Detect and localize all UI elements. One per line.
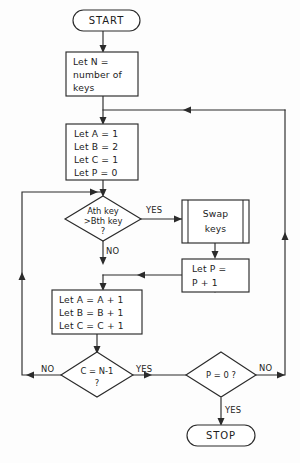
arrowhead-swap-to-inc-p (212, 251, 219, 259)
swap-keys-line-2: keys (205, 223, 227, 234)
node-init-vars[interactable]: Let A = 1 Let B = 2 Let C = 1 Let P = 0 (66, 124, 138, 180)
inc-abc-line-2: Let B = B + 1 (59, 307, 124, 318)
edge-label-check-p-no: NO (259, 363, 272, 373)
edge-label-compare-yes: YES (145, 205, 162, 215)
init-vars-line-1: Let A = 1 (74, 128, 118, 139)
inc-p-line-2: P + 1 (192, 277, 218, 288)
init-vars-line-4: Let P = 0 (74, 167, 117, 178)
node-check-c[interactable]: C = N-1 ? (61, 352, 133, 397)
arrowhead-check-c-no-up (19, 272, 26, 280)
edge-label-check-c-no: NO (41, 364, 54, 374)
node-stop[interactable]: STOP (187, 425, 255, 446)
compare-keys-line-1: Ath key (87, 206, 119, 216)
edge-label-check-c-yes: YES (135, 364, 152, 374)
arrowhead-check-p-no-right (277, 372, 285, 379)
node-swap-keys[interactable]: Swap keys (182, 200, 249, 243)
node-inc-abc[interactable]: Let A = A + 1 Let B = B + 1 Let C = C + … (52, 290, 142, 334)
inc-p-line-1: Let P = (192, 263, 226, 274)
init-n-line-2: number of (73, 69, 123, 80)
node-start[interactable]: START (73, 10, 140, 31)
edge-check-p-no-loop (255, 110, 285, 375)
arrowhead-top-feedback-rail (183, 107, 191, 114)
arrowhead-check-p-no-up (282, 232, 289, 240)
node-compare-keys[interactable]: Ath key >Bth key ? (65, 196, 141, 241)
edge-label-compare-no: NO (106, 246, 119, 256)
arrowhead-compare-yes-to-swap (174, 216, 182, 223)
check-c-line-2: ? (95, 378, 99, 388)
arrowhead-check-c-no-left (26, 372, 34, 379)
node-inc-p[interactable]: Let P = P + 1 (182, 259, 249, 292)
start-label: START (89, 15, 124, 26)
arrowhead-check-c-no-into-compare (90, 189, 98, 196)
compare-keys-line-3: ? (101, 226, 105, 236)
init-vars-line-2: Let B = 2 (74, 141, 118, 152)
init-vars-line-3: Let C = 1 (74, 154, 118, 165)
inc-abc-line-1: Let A = A + 1 (59, 294, 124, 305)
swap-keys-line-1: Swap (203, 208, 228, 219)
stop-label: STOP (206, 430, 236, 441)
inc-abc-line-3: Let C = C + 1 (59, 320, 124, 331)
flowchart-diagram: START Let N = number of keys Let A = 1 L… (0, 0, 300, 463)
arrowhead-inc-p-to-merge (137, 272, 145, 279)
swap-keys-box-shape (182, 200, 249, 243)
check-c-line-1: C = N-1 (81, 366, 114, 376)
edge-label-check-p-yes: YES (224, 405, 241, 415)
init-n-line-1: Let N = (73, 56, 109, 67)
init-n-line-3: keys (73, 82, 95, 93)
node-check-p[interactable]: P = 0 ? (186, 352, 256, 397)
compare-keys-line-2: >Bth key (84, 216, 123, 226)
node-init-n[interactable]: Let N = number of keys (66, 52, 138, 96)
check-p-line-1: P = 0 ? (206, 370, 236, 380)
arrowhead-compare-no-down (100, 257, 107, 265)
